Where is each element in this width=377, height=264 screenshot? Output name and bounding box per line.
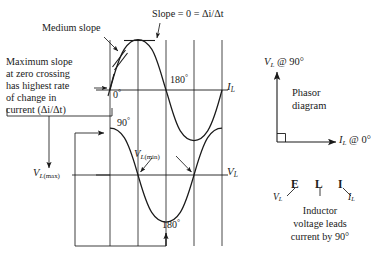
eli-letter-l: L <box>315 178 323 192</box>
maximum-slope-line-1: Maximum slope <box>6 56 118 68</box>
eli-caption-line-2: voltage leads <box>272 218 368 231</box>
marker-180-degrees-voltage: 180° <box>162 218 180 231</box>
vl-min-label: VL(min) <box>134 148 160 161</box>
marker-0-degrees: 0° <box>113 88 121 101</box>
medium-slope-annotation: Medium slope <box>42 22 101 34</box>
marker-90-degrees-value: 90 <box>117 117 127 128</box>
marker-180-degrees-current: 180° <box>170 73 188 86</box>
maximum-slope-line-5: current (Δi/Δt) <box>6 104 118 116</box>
voltage-subscript: L <box>234 170 238 179</box>
marker-90-degrees: 90° <box>117 116 130 129</box>
marker-180-degrees-current-value: 180 <box>170 74 185 85</box>
degree-sign: ° <box>177 218 180 227</box>
maximum-slope-line-2: at zero crossing <box>6 68 118 80</box>
eli-caption-line-1: Inductor <box>272 205 368 218</box>
vl-min-qualifier: (min) <box>144 153 159 160</box>
slope-zero-annotation: Slope = 0 = Δi/Δt <box>152 8 224 20</box>
eli-caption-line-3: current by 90° <box>272 231 368 244</box>
eli-caption: Inductor voltage leads current by 90° <box>272 205 368 243</box>
phasor-current-label: IL @ 0° <box>339 134 371 147</box>
phasor-title-line-1: Phasor <box>292 86 326 99</box>
degree-sign: ° <box>185 73 188 82</box>
degree-sign: ° <box>127 116 130 125</box>
phasor-diagram-title: Phasor diagram <box>292 86 326 112</box>
eli-current-label: IL <box>348 192 355 203</box>
eli-voltage-subscript: L <box>279 195 283 202</box>
vl-max-qualifier: (max) <box>43 172 60 179</box>
text-bracket <box>7 108 112 168</box>
eli-voltage-label: VL <box>273 192 282 203</box>
degree-sign: ° <box>118 88 121 97</box>
figure-root: Medium slope Slope = 0 = Δi/Δt Maximum s… <box>0 0 377 264</box>
vl-max-label: VL(max) <box>33 167 60 180</box>
eli-current-subscript: L <box>351 195 355 202</box>
phasor-voltage-label: VL @ 90° <box>264 56 304 69</box>
marker-180-degrees-voltage-value: 180 <box>162 219 177 230</box>
current-axis-label: IL <box>227 80 235 94</box>
phasor-voltage-angle: @ 90° <box>274 56 304 67</box>
phasor-current-angle: @ 0° <box>346 134 370 145</box>
maximum-slope-annotation: Maximum slope at zero crossing has highe… <box>6 56 118 116</box>
eli-letter-i: I <box>338 178 342 192</box>
voltage-axis-label: VL <box>227 165 238 179</box>
eli-letter-e: E <box>291 178 299 192</box>
phasor-title-line-2: diagram <box>292 99 326 112</box>
maximum-slope-line-4: of change in <box>6 92 118 104</box>
maximum-slope-line-3: has highest rate <box>6 80 118 92</box>
current-subscript: L <box>231 85 235 94</box>
voltage-symbol: V <box>227 165 234 177</box>
